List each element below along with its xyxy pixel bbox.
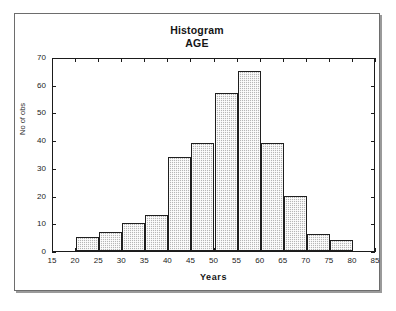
bars-layer	[53, 59, 374, 251]
x-axis-tick-label: 70	[295, 256, 317, 265]
y-axis-tick-right	[371, 197, 375, 198]
histogram-bar	[122, 223, 145, 251]
x-axis-tick-label: 40	[156, 256, 178, 265]
x-axis-label: Years	[52, 272, 375, 282]
x-axis-tick-top	[237, 58, 238, 62]
y-axis-tick-right	[371, 252, 375, 253]
x-axis-tick	[121, 248, 122, 252]
x-axis-tick	[237, 248, 238, 252]
y-axis-tick-label: 30	[26, 164, 46, 173]
y-axis-tick-right	[371, 58, 375, 59]
y-axis-tick	[52, 197, 56, 198]
plot-area	[52, 58, 375, 252]
x-axis-tick	[306, 248, 307, 252]
y-axis-tick-right	[371, 141, 375, 142]
x-axis-tick	[98, 248, 99, 252]
x-axis-tick-label: 50	[203, 256, 225, 265]
x-axis-tick	[352, 248, 353, 252]
x-axis-tick-top	[75, 58, 76, 62]
y-axis-tick-label: 40	[26, 136, 46, 145]
y-axis-tick	[52, 252, 56, 253]
histogram-bar	[307, 234, 330, 251]
x-axis-tick-label: 85	[364, 256, 386, 265]
y-axis-tick-label: 50	[26, 108, 46, 117]
x-axis-tick-label: 15	[41, 256, 63, 265]
chart-subtitle: AGE	[14, 37, 380, 49]
histogram-bar	[215, 93, 238, 251]
x-axis-tick-top	[306, 58, 307, 62]
y-axis-tick	[52, 169, 56, 170]
x-axis-tick	[375, 248, 376, 252]
x-axis-tick-label: 25	[87, 256, 109, 265]
x-axis-tick	[167, 248, 168, 252]
histogram-bar	[284, 196, 307, 251]
y-axis-tick	[52, 113, 56, 114]
x-axis-tick-top	[329, 58, 330, 62]
histogram-bar	[238, 71, 261, 251]
x-axis-tick-top	[98, 58, 99, 62]
y-axis-tick-label: 70	[26, 53, 46, 62]
y-axis-tick-label: 0	[26, 247, 46, 256]
x-axis-tick-top	[121, 58, 122, 62]
x-axis-tick-label: 55	[226, 256, 248, 265]
x-axis-tick-top	[144, 58, 145, 62]
x-axis-tick-label: 65	[272, 256, 294, 265]
y-axis-tick	[52, 86, 56, 87]
y-axis-tick-label: 60	[26, 81, 46, 90]
y-axis-tick-right	[371, 113, 375, 114]
x-axis-tick-label: 35	[133, 256, 155, 265]
y-axis-tick	[52, 58, 56, 59]
histogram-bar	[145, 215, 168, 251]
x-axis-tick-label: 75	[318, 256, 340, 265]
x-axis-tick	[214, 248, 215, 252]
x-axis-tick	[329, 248, 330, 252]
y-axis-tick-right	[371, 169, 375, 170]
x-axis-tick-top	[260, 58, 261, 62]
x-axis-tick	[190, 248, 191, 252]
x-axis-tick-top	[283, 58, 284, 62]
x-axis-tick-label: 30	[110, 256, 132, 265]
x-axis-tick	[260, 248, 261, 252]
x-axis-tick-top	[352, 58, 353, 62]
histogram-bar	[191, 143, 214, 251]
chart-title-block: Histogram AGE	[14, 24, 380, 49]
y-axis-tick	[52, 224, 56, 225]
x-axis-tick	[144, 248, 145, 252]
histogram-bar	[168, 157, 191, 251]
x-axis-tick-top	[375, 58, 376, 62]
x-axis-tick-label: 20	[64, 256, 86, 265]
x-axis-tick-label: 60	[249, 256, 271, 265]
page-title: Histogram	[14, 24, 380, 36]
y-axis-tick-label: 10	[26, 219, 46, 228]
histogram-figure: Histogram AGE No of obs 1520253035404550…	[0, 0, 396, 311]
x-axis-tick-label: 80	[341, 256, 363, 265]
y-axis-tick-right	[371, 224, 375, 225]
histogram-bar	[261, 143, 284, 251]
histogram-bar	[330, 240, 353, 251]
x-axis-tick-top	[167, 58, 168, 62]
x-axis-tick-top	[190, 58, 191, 62]
y-axis-tick-label: 20	[26, 192, 46, 201]
x-axis-tick	[75, 248, 76, 252]
x-axis-tick-top	[214, 58, 215, 62]
x-axis-tick-label: 45	[179, 256, 201, 265]
histogram-bar	[99, 232, 122, 251]
y-axis-tick	[52, 141, 56, 142]
histogram-bar	[76, 237, 99, 251]
y-axis-tick-right	[371, 86, 375, 87]
x-axis-tick	[283, 248, 284, 252]
